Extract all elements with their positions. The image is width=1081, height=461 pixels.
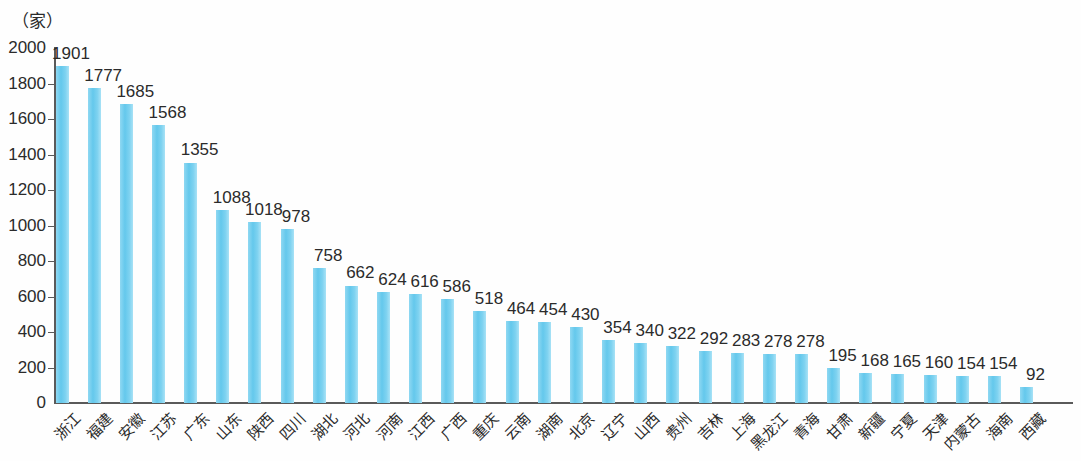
bar-value-label: 154 — [957, 354, 985, 374]
bar-value-label: 292 — [700, 329, 728, 349]
bar-value-label: 195 — [828, 346, 856, 366]
bar — [184, 163, 197, 404]
y-axis-tick-label: 1200 — [2, 180, 46, 200]
x-axis-category-label: 黑龙江 — [746, 408, 792, 454]
x-axis-category-label: 河南 — [370, 408, 405, 443]
bar — [441, 299, 454, 403]
bar-value-label: 616 — [410, 272, 438, 292]
y-axis-tick-mark — [48, 84, 55, 85]
y-axis-tick-mark — [48, 261, 55, 262]
bar — [377, 292, 390, 403]
bar — [313, 268, 326, 403]
bar — [473, 311, 486, 403]
bar-value-label: 168 — [861, 351, 889, 371]
bar — [345, 286, 358, 404]
bar — [666, 346, 679, 403]
x-axis-category-label: 云南 — [499, 408, 534, 443]
bar — [634, 343, 647, 403]
x-axis-category-label: 海南 — [981, 408, 1016, 443]
bar-value-label: 430 — [571, 305, 599, 325]
x-axis-category-label: 北京 — [563, 408, 598, 443]
bar-value-label: 278 — [796, 332, 824, 352]
bar-value-label: 1568 — [149, 103, 187, 123]
x-axis-category-label: 西藏 — [1013, 408, 1048, 443]
bar — [956, 376, 969, 403]
y-axis-tick-label: 2000 — [2, 38, 46, 58]
y-axis-tick-label: 200 — [2, 358, 46, 378]
bar-value-label: 978 — [282, 207, 310, 227]
bar — [538, 322, 551, 403]
y-axis-tick-label: 800 — [2, 251, 46, 271]
bar — [88, 88, 101, 403]
bar-value-label: 165 — [893, 352, 921, 372]
bar — [506, 321, 519, 403]
bar — [409, 294, 422, 403]
x-axis-category-label: 贵州 — [659, 408, 694, 443]
bar-value-label: 354 — [603, 318, 631, 338]
y-axis-tick-mark — [48, 368, 55, 369]
y-axis-tick-label: 1400 — [2, 145, 46, 165]
x-axis-category-label: 辽宁 — [595, 408, 630, 443]
x-axis-category-label: 山东 — [209, 408, 244, 443]
bar-value-label: 1355 — [181, 140, 219, 160]
bar — [827, 368, 840, 403]
x-axis-category-label: 广东 — [177, 408, 212, 443]
bar-value-label: 1018 — [245, 200, 283, 220]
x-axis-category-label: 甘肃 — [820, 408, 855, 443]
x-axis-category-label: 江西 — [402, 408, 437, 443]
x-axis-category-label: 湖北 — [306, 408, 341, 443]
bar-value-label: 518 — [475, 289, 503, 309]
y-axis-tick-label: 1800 — [2, 74, 46, 94]
y-axis-tick-mark — [48, 226, 55, 227]
y-axis-tick-mark — [48, 332, 55, 333]
bar — [891, 374, 904, 403]
y-axis-tick-mark — [48, 119, 55, 120]
bar — [248, 222, 261, 403]
x-axis-category-label: 重庆 — [466, 408, 501, 443]
x-axis-category-label: 山西 — [627, 408, 662, 443]
bar-value-label: 464 — [507, 299, 535, 319]
bar — [859, 373, 872, 403]
bar — [699, 351, 712, 403]
x-axis-category-label: 安徽 — [113, 408, 148, 443]
bar-value-label: 278 — [764, 332, 792, 352]
x-axis-category-label: 四川 — [274, 408, 309, 443]
bar-value-label: 454 — [539, 300, 567, 320]
x-axis-category-label: 陕西 — [241, 408, 276, 443]
x-axis-category-label: 湖南 — [531, 408, 566, 443]
x-axis-category-label: 新疆 — [852, 408, 887, 443]
bar — [1020, 387, 1033, 403]
bar — [602, 340, 615, 403]
bar — [120, 104, 133, 403]
bar-value-label: 586 — [443, 277, 471, 297]
x-axis-category-label: 宁夏 — [884, 408, 919, 443]
bar-value-label: 758 — [314, 246, 342, 266]
plot-area — [55, 48, 1073, 403]
x-axis-category-label: 内蒙古 — [938, 408, 984, 454]
bar-chart: （家） 020040060080010001200140016001800200… — [0, 0, 1081, 461]
x-axis-category-label: 江苏 — [145, 408, 180, 443]
y-axis-tick-mark — [48, 155, 55, 156]
x-axis-category-label: 浙江 — [48, 408, 83, 443]
y-axis-tick-labels: 0200400600800100012001400160018002000 — [0, 0, 46, 461]
bar — [570, 327, 583, 403]
bar — [281, 229, 294, 403]
y-axis-tick-mark — [48, 297, 55, 298]
bar — [763, 354, 776, 403]
bar — [56, 66, 69, 403]
x-axis-category-label: 青海 — [788, 408, 823, 443]
x-axis-category-label: 福建 — [81, 408, 116, 443]
y-axis-tick-label: 1000 — [2, 216, 46, 236]
y-axis-tick-mark — [48, 190, 55, 191]
bar-value-label: 1901 — [52, 44, 90, 64]
bar — [731, 353, 744, 403]
bar-value-label: 322 — [668, 324, 696, 344]
bar — [795, 354, 808, 403]
bar-value-label: 624 — [378, 270, 406, 290]
bar — [152, 125, 165, 403]
y-axis-tick-label: 400 — [2, 322, 46, 342]
bar-value-label: 662 — [346, 263, 374, 283]
x-axis-category-label: 广西 — [434, 408, 469, 443]
y-axis-tick-label: 1600 — [2, 109, 46, 129]
x-axis-category-label: 吉林 — [691, 408, 726, 443]
